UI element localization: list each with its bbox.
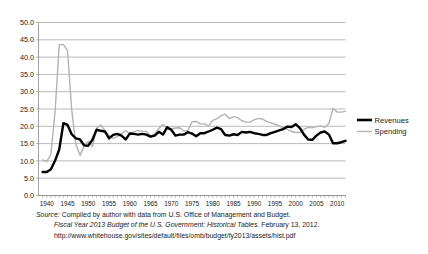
source-text-1: Compiled by author with data from U.S. O… [62,211,291,218]
y-tick-label: 10.0 [20,157,34,166]
x-tick-label: 1945 [60,200,75,207]
source-note: Source: Compiled by author with data fro… [36,210,416,241]
x-tick-label: 1995 [268,200,283,207]
y-tick-label: 30.0 [20,87,34,96]
y-tick-label: 40.0 [20,53,34,62]
y-tick-label: 15.0 [20,139,34,148]
y-tick-label: 5.0 [24,174,34,183]
series-line-revenues [43,123,346,172]
figure-container: 0.05.010.015.020.025.030.035.040.045.050… [0,0,428,254]
x-tick-label: 1990 [247,200,262,207]
y-tick-label: 35.0 [20,70,34,79]
x-tick-label: 1985 [226,200,241,207]
x-tick-label: 1940 [40,200,55,207]
x-tick-label: 1970 [164,200,179,207]
x-tick-label: 1965 [143,200,158,207]
gridlines-group [39,23,346,196]
y-tick-label: 20.0 [20,122,34,131]
x-tick-label: 1950 [81,200,96,207]
x-tick-label: 1980 [206,200,221,207]
chart-legend: RevenuesSpending [357,116,409,137]
y-axis-tick-labels: 0.05.010.015.020.025.030.035.040.045.050… [20,18,39,200]
y-tick-label: 25.0 [20,105,34,114]
y-tick-label: 45.0 [20,35,34,44]
x-tick-label: 1975 [185,200,200,207]
x-tick-label: 1960 [123,200,138,207]
data-series-group [43,45,346,172]
source-line-3: http://www.whitehouse.gov/sites/default/… [36,231,416,241]
x-tick-label: 2005 [309,200,324,207]
source-line-1: Source: Compiled by author with data fro… [36,210,416,220]
y-tick-label: 50.0 [20,18,34,27]
x-tick-label: 2010 [330,200,345,207]
x-tick-label: 1955 [102,200,117,207]
source-line-2: Fiscal Year 2013 Budget of the U.S. Gove… [36,220,416,230]
y-tick-label: 0.0 [24,191,34,200]
source-label: Source: [36,211,60,218]
x-tick-label: 2000 [289,200,304,207]
source-publication-title: Fiscal Year 2013 Budget of the U.S. Gove… [54,221,259,228]
source-date: February 13, 2012. [261,221,319,228]
source-url: http://www.whitehouse.gov/sites/default/… [54,232,295,239]
x-axis-tick-labels: 1940194519501955196019651970197519801985… [40,200,345,207]
legend-label-spending: Spending [375,127,407,136]
legend-label-revenues: Revenues [375,116,409,125]
